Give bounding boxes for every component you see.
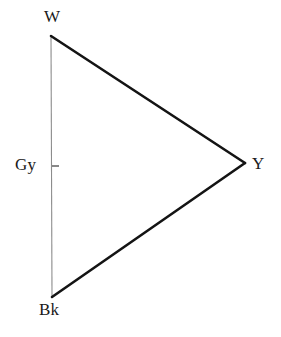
triangle-diagram [0, 0, 281, 337]
vertex-label-black: Bk [39, 301, 59, 318]
edge-yellow-black [52, 163, 245, 297]
edge-white-black [51, 36, 52, 297]
vertex-label-white: W [44, 8, 60, 25]
edge-white-yellow [51, 36, 245, 163]
axis-label-grey: Gy [15, 156, 36, 173]
vertex-label-yellow: Y [252, 155, 264, 172]
colour-triangle-figure: W Y Bk Gy [0, 0, 281, 337]
